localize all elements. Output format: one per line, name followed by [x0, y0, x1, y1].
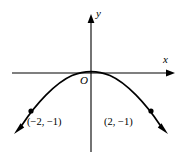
parabola-figure: y x O (−2, −1) (2, −1) [0, 0, 190, 157]
origin-label: O [80, 75, 88, 86]
x-axis [12, 70, 175, 77]
data-point-left-marker [28, 108, 33, 113]
y-axis-arrowhead-icon [88, 14, 95, 23]
coordinate-plot-svg [0, 0, 190, 157]
x-axis-label: x [163, 54, 168, 65]
x-axis-arrowhead-icon [166, 70, 175, 77]
y-axis [88, 14, 95, 152]
data-point-right-label: (2, −1) [104, 117, 133, 128]
y-axis-label: y [96, 8, 101, 19]
data-point-right-marker [148, 108, 153, 113]
data-point-left-label: (−2, −1) [27, 117, 62, 128]
